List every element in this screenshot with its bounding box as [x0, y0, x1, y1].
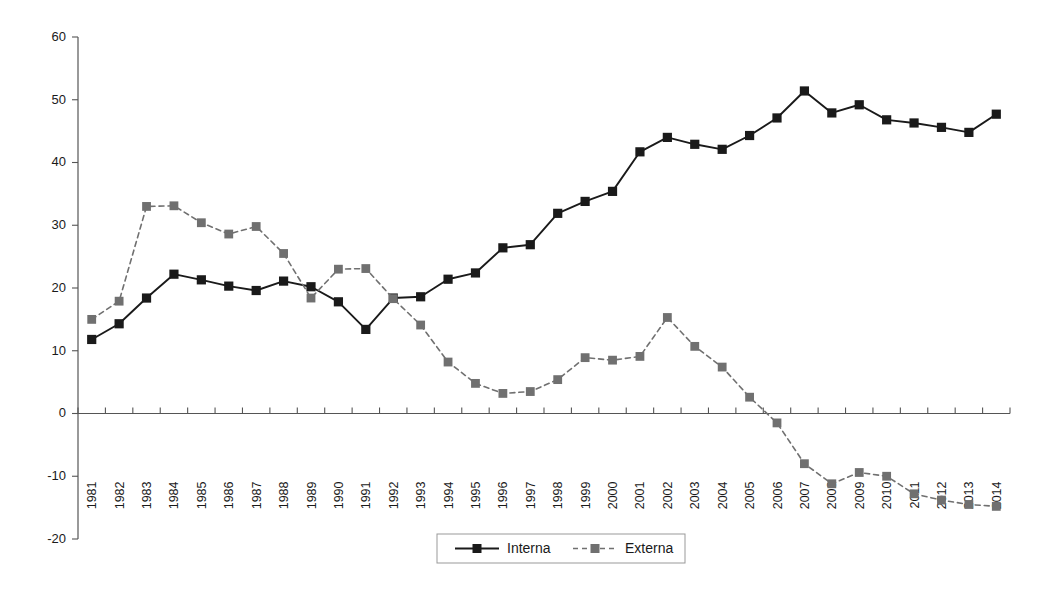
- x-tick-label: 1983: [140, 481, 154, 509]
- data-point-marker: [937, 123, 946, 132]
- data-point-marker: [608, 187, 617, 196]
- data-point-marker: [279, 277, 288, 286]
- data-point-marker: [471, 379, 480, 388]
- x-tick-label: 1993: [414, 481, 428, 509]
- x-tick-label: 1990: [332, 481, 346, 509]
- data-point-marker: [115, 319, 124, 328]
- x-tick-label: 1982: [113, 481, 127, 509]
- series-line: [92, 91, 997, 339]
- data-point-marker: [608, 356, 617, 365]
- data-point-marker: [498, 243, 507, 252]
- x-tick-label: 1987: [250, 481, 264, 509]
- chart-legend: InternaExterna: [437, 534, 685, 563]
- x-tick-label: 2003: [688, 481, 702, 509]
- data-point-marker: [773, 419, 782, 428]
- data-point-marker: [718, 363, 727, 372]
- data-point-marker: [306, 282, 315, 291]
- x-tick-label: 1986: [222, 481, 236, 509]
- data-point-marker: [636, 352, 645, 361]
- data-point-marker: [772, 113, 781, 122]
- data-point-marker: [909, 118, 918, 127]
- data-point-marker: [142, 202, 151, 211]
- x-tick-label: 1991: [359, 481, 373, 509]
- data-point-marker: [471, 268, 480, 277]
- x-tick-label: 1981: [85, 481, 99, 509]
- data-point-marker: [718, 145, 727, 154]
- x-tick-label: 1988: [277, 481, 291, 509]
- legend-marker-swatch: [591, 544, 600, 553]
- y-tick-label: 10: [52, 343, 66, 358]
- y-tick-label: -20: [47, 531, 66, 546]
- x-tick-label: 2006: [771, 481, 785, 509]
- y-axis: 6050403020100-10-20: [47, 29, 78, 546]
- data-point-marker: [307, 294, 316, 303]
- data-point-marker: [142, 293, 151, 302]
- data-point-marker: [964, 128, 973, 137]
- legend-marker-swatch: [473, 544, 482, 553]
- x-tick-label: 2001: [633, 481, 647, 509]
- y-tick-label: -10: [47, 468, 66, 483]
- x-tick-label: 2000: [606, 481, 620, 509]
- data-point-marker: [224, 282, 233, 291]
- data-point-marker: [553, 375, 562, 384]
- x-tick-label: 1984: [167, 481, 181, 509]
- x-tick-label: 2005: [743, 481, 757, 509]
- y-tick-label: 50: [52, 92, 66, 107]
- x-tick-label: 2007: [798, 481, 812, 509]
- y-tick-label: 60: [52, 29, 66, 44]
- series-interna: [87, 86, 1001, 344]
- data-point-marker: [526, 240, 535, 249]
- chart-container: 6050403020100-10-20 19811982198319841985…: [0, 0, 1064, 599]
- data-point-marker: [87, 335, 96, 344]
- legend-label: Interna: [507, 540, 551, 556]
- x-tick-label: 1996: [496, 481, 510, 509]
- y-tick-label: 40: [52, 154, 66, 169]
- data-point-marker: [443, 275, 452, 284]
- series-line: [92, 206, 997, 507]
- data-point-marker: [992, 502, 1001, 511]
- y-tick-label: 20: [52, 280, 66, 295]
- data-point-marker: [663, 313, 672, 322]
- x-tick-label: 2004: [716, 481, 730, 509]
- data-point-marker: [252, 222, 261, 231]
- x-axis: 1981198219831984198519861987198819891990…: [78, 408, 1010, 510]
- data-point-marker: [115, 297, 124, 306]
- data-point-marker: [334, 297, 343, 306]
- x-tick-label: 1999: [579, 481, 593, 509]
- data-point-marker: [635, 147, 644, 156]
- x-tick-label: 1998: [551, 481, 565, 509]
- x-tick-label: 2012: [935, 481, 949, 509]
- data-point-marker: [663, 133, 672, 142]
- data-point-marker: [197, 218, 206, 227]
- data-point-marker: [690, 342, 699, 351]
- series-layer: [87, 86, 1001, 510]
- data-point-marker: [553, 209, 562, 218]
- x-tick-label: 1994: [442, 481, 456, 509]
- data-point-marker: [800, 459, 809, 468]
- data-point-marker: [416, 292, 425, 301]
- data-point-marker: [855, 100, 864, 109]
- data-point-marker: [169, 270, 178, 279]
- data-point-marker: [964, 500, 973, 509]
- data-point-marker: [389, 294, 398, 303]
- data-point-marker: [444, 358, 453, 367]
- data-point-marker: [252, 286, 261, 295]
- series-externa: [87, 201, 1000, 510]
- x-tick-label: 2002: [661, 481, 675, 509]
- data-point-marker: [937, 496, 946, 505]
- data-point-marker: [690, 140, 699, 149]
- data-point-marker: [855, 468, 864, 477]
- data-point-marker: [745, 131, 754, 140]
- x-tick-label: 1985: [195, 481, 209, 509]
- data-point-marker: [882, 472, 891, 481]
- x-tick-label: 1992: [387, 481, 401, 509]
- data-point-marker: [334, 265, 343, 274]
- data-point-marker: [279, 249, 288, 258]
- data-point-marker: [526, 387, 535, 396]
- data-point-marker: [992, 110, 1001, 119]
- data-point-marker: [197, 275, 206, 284]
- x-tick-label: 1997: [524, 481, 538, 509]
- data-point-marker: [827, 108, 836, 117]
- data-point-marker: [882, 115, 891, 124]
- data-point-marker: [581, 197, 590, 206]
